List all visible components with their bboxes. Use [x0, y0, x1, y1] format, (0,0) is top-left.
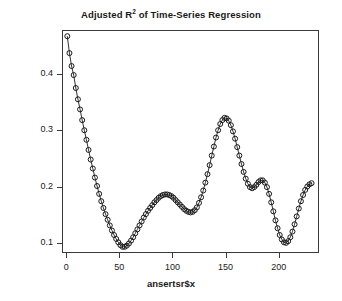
plot-area: [62, 30, 319, 253]
x-tick-mark: [226, 253, 227, 258]
chart-title-base: Adjusted R: [81, 9, 132, 20]
y-tick-label: 0.2: [23, 181, 53, 191]
chart-figure: Adjusted R2 of Time-Series Regression an…: [0, 0, 342, 301]
x-tick-label: 50: [99, 262, 139, 272]
data-series-scatter: [62, 30, 319, 253]
y-tick-label: 0.4: [23, 68, 53, 78]
x-axis-label: ansertsr$x: [0, 278, 342, 289]
x-tick-label: 150: [206, 262, 246, 272]
y-tick-label: 0.3: [23, 124, 53, 134]
y-tick-label: 0.1: [23, 237, 53, 247]
chart-title-tail: of Time-Series Regression: [136, 9, 261, 20]
x-tick-mark: [172, 253, 173, 258]
x-tick-label: 200: [259, 262, 299, 272]
x-tick-mark: [119, 253, 120, 258]
x-tick-mark: [279, 253, 280, 258]
x-tick-mark: [66, 253, 67, 258]
chart-title: Adjusted R2 of Time-Series Regression: [0, 8, 342, 20]
x-tick-label: 0: [46, 262, 86, 272]
x-tick-label: 100: [152, 262, 192, 272]
